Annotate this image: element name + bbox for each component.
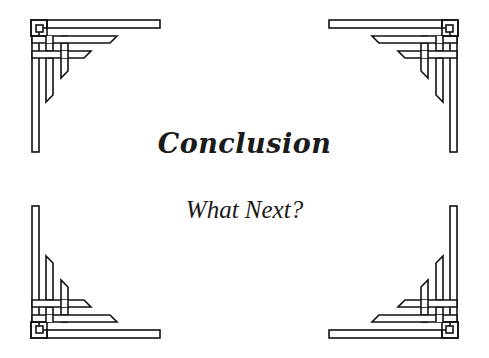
slide-title: Conclusion <box>0 128 489 159</box>
slide-subtitle: What Next? <box>0 196 489 224</box>
